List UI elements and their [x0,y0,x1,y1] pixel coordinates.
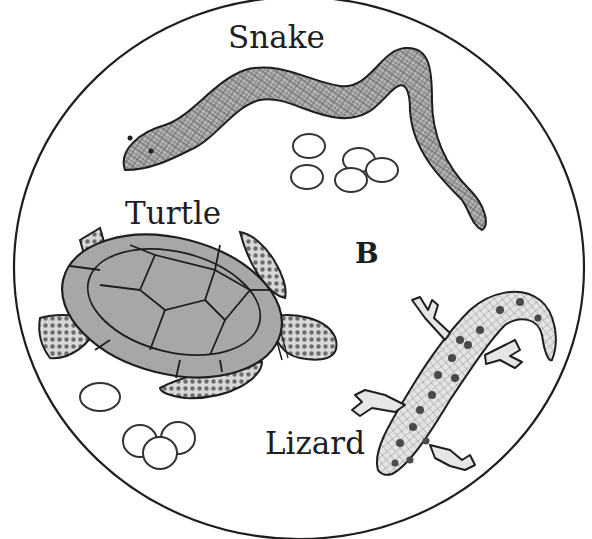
turtle-label: Turtle [125,198,221,229]
panel-label: B [355,240,379,268]
snake-eggs [291,134,398,192]
lizard-illustration [352,292,556,475]
reptiles-egg-diagram: Snake Turtle Lizard B [0,0,592,539]
lizard-label: Lizard [265,428,365,459]
turtle-illustration [39,213,336,399]
snake-eye-icon [128,136,133,141]
snake-label: Snake [228,22,325,53]
